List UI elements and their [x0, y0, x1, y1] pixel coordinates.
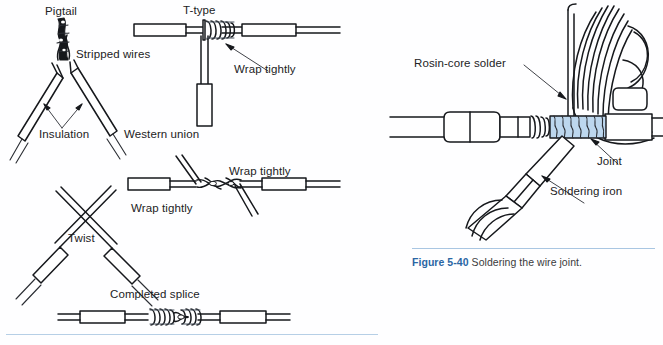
solder-joint-drawing — [550, 116, 606, 138]
pigtail-title-label: Pigtail — [45, 5, 77, 18]
completed-splice-label: Completed splice — [110, 288, 200, 301]
completed-splice-center-twist — [174, 312, 188, 321]
ttype-wrap-tightly-label: Wrap tightly — [234, 63, 296, 76]
rosin-core-solder-leader — [524, 65, 566, 99]
western-union-twist — [197, 178, 241, 189]
soldering-iron-label: Soldering iron — [550, 185, 622, 198]
caption-text: Figure 5-40Soldering the wire joint. — [412, 256, 663, 268]
figure-caption: Figure 5-40Soldering the wire joint. — [412, 248, 663, 268]
western-union-wrap-tightly-upper-label: Wrap tightly — [229, 165, 291, 178]
left-panel-bottom-rule — [6, 334, 378, 335]
wire-splice-types-diagram: Pigtail T-type Stripped wires Insulation… — [0, 0, 390, 345]
caption-rule — [412, 248, 655, 249]
stripped-wires-label: Stripped wires — [76, 48, 150, 61]
joint-label: Joint — [597, 155, 622, 168]
ttype-title-label: T-type — [183, 4, 216, 17]
rosin-core-solder-label: Rosin-core solder — [414, 57, 506, 70]
figure-caption-text: Soldering the wire joint. — [472, 256, 582, 268]
insulation-label: Insulation — [39, 128, 89, 141]
completed-splice-drawing — [58, 309, 290, 325]
figure-number: Figure 5-40 — [412, 256, 469, 268]
western-union-label: Western union — [124, 128, 199, 141]
left-cable-drawing — [390, 112, 549, 142]
twist-label: Twist — [68, 232, 95, 245]
soldering-the-wire-joint-diagram: Rosin-core solder Joint Soldering iron F… — [390, 0, 663, 345]
completed-splice-left-coil — [150, 309, 174, 325]
right-cable-drawing — [605, 114, 663, 140]
soldering-illustration-svg — [390, 0, 663, 240]
insulation-leader-arrows — [44, 104, 82, 128]
pigtail-splice-drawing — [10, 18, 126, 163]
figure-page: Pigtail T-type Stripped wires Insulation… — [0, 0, 663, 345]
pigtail-twisted-strands — [57, 18, 70, 60]
western-union-wrap-tightly-lower-label: Wrap tightly — [131, 202, 193, 215]
